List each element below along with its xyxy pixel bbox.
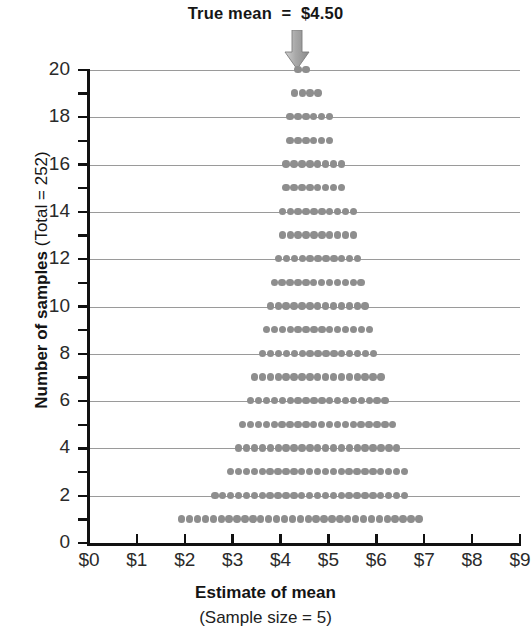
data-point (186, 515, 193, 522)
x-axis-title: Estimate of mean (0, 583, 531, 603)
data-point (211, 492, 218, 499)
data-point (306, 160, 313, 167)
data-point (282, 160, 289, 167)
data-point (275, 302, 282, 309)
true-mean-label: True mean = $4.50 (0, 4, 531, 23)
data-point (194, 515, 201, 522)
data-point (287, 397, 294, 404)
data-point (326, 279, 333, 286)
data-point (338, 302, 345, 309)
y-minor-tick (78, 92, 88, 94)
data-point (302, 137, 309, 144)
data-point (275, 255, 282, 262)
data-point (314, 184, 321, 191)
data-point (283, 350, 290, 357)
data-point (298, 302, 305, 309)
data-point (318, 326, 325, 333)
data-point (286, 113, 293, 120)
data-point (350, 421, 357, 428)
data-point (322, 492, 329, 499)
data-point (286, 279, 293, 286)
dot-row (89, 113, 520, 122)
data-point (219, 492, 226, 499)
data-point (334, 397, 341, 404)
dot-row (89, 397, 520, 406)
data-point (318, 231, 325, 238)
data-point (393, 492, 400, 499)
dot-row (89, 89, 520, 98)
data-point (267, 350, 274, 357)
data-point (401, 492, 408, 499)
data-point (318, 137, 325, 144)
data-point (357, 279, 364, 286)
data-point (344, 515, 351, 522)
data-point (346, 350, 353, 357)
x-tick (279, 534, 281, 545)
data-point (286, 421, 293, 428)
data-point (338, 184, 345, 191)
data-point (366, 326, 373, 333)
data-point (369, 444, 376, 451)
data-point (334, 231, 341, 238)
data-point (330, 160, 337, 167)
y-tick (78, 258, 88, 260)
plot-area (89, 70, 520, 543)
data-point (282, 444, 289, 451)
data-point (266, 468, 273, 475)
data-point (314, 468, 321, 475)
data-point (336, 515, 343, 522)
x-tick-label: $9 (490, 549, 531, 571)
data-point (306, 302, 313, 309)
data-point (275, 444, 282, 451)
data-point (354, 302, 361, 309)
data-point (310, 326, 317, 333)
data-point (266, 492, 273, 499)
data-point (298, 373, 305, 380)
data-point (373, 397, 380, 404)
data-point (320, 515, 327, 522)
data-point (287, 326, 294, 333)
x-tick (471, 534, 473, 545)
data-point (294, 66, 301, 73)
x-tick (184, 534, 186, 545)
data-point (243, 468, 250, 475)
data-point (326, 113, 333, 120)
data-point (385, 492, 392, 499)
data-point (233, 515, 240, 522)
data-point (330, 184, 337, 191)
x-axis-line (87, 543, 521, 546)
data-point (391, 515, 398, 522)
data-point (322, 373, 329, 380)
data-point (385, 468, 392, 475)
y-tick (78, 211, 88, 213)
data-point (251, 444, 258, 451)
data-point (334, 279, 341, 286)
y-minor-tick (78, 376, 88, 378)
data-point (255, 421, 262, 428)
data-point (354, 444, 361, 451)
data-point (366, 397, 373, 404)
y-tick (78, 116, 88, 118)
down-arrow-icon (282, 30, 312, 70)
data-point (365, 421, 372, 428)
data-point (314, 350, 321, 357)
data-point (350, 326, 357, 333)
data-point (178, 515, 185, 522)
y-tick (78, 495, 88, 497)
data-point (290, 492, 297, 499)
data-point (302, 326, 309, 333)
data-point (259, 373, 266, 380)
x-axis-subtitle: (Sample size = 5) (0, 608, 531, 628)
data-point (338, 373, 345, 380)
data-point (306, 492, 313, 499)
data-point (314, 302, 321, 309)
dot-row (89, 208, 520, 217)
data-point (322, 160, 329, 167)
y-minor-tick (78, 234, 88, 236)
data-point (338, 160, 345, 167)
data-point (287, 231, 294, 238)
data-point (370, 350, 377, 357)
data-point (314, 444, 321, 451)
data-point (314, 255, 321, 262)
data-point (302, 208, 309, 215)
